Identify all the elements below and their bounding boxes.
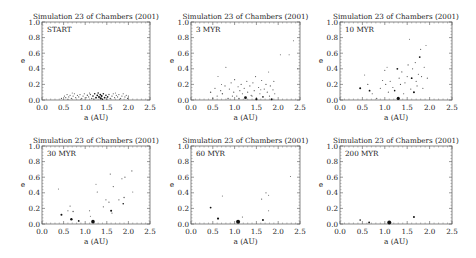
scatter-panel: Simulation 23 of Chambers (2001)0.00.51.…	[21, 12, 159, 122]
planet-point	[68, 96, 69, 97]
y-tick-label: 0.0	[178, 96, 190, 105]
planet-point	[128, 96, 129, 97]
time-annotation: 200 MYR	[345, 149, 379, 158]
planet-point	[236, 96, 237, 97]
figure-canvas: Simulation 23 of Chambers (2001)0.00.51.…	[0, 0, 476, 258]
planet-point	[267, 92, 268, 93]
y-tick-label: 1.0	[29, 18, 41, 27]
planet-point	[217, 217, 219, 219]
planet-point	[261, 198, 262, 199]
planet-point	[415, 62, 416, 63]
planet-point	[403, 93, 404, 94]
planet-point	[95, 97, 97, 99]
x-tick-label: 1.5	[101, 227, 113, 236]
planet-point	[82, 96, 83, 97]
y-tick-label: 0.8	[327, 157, 339, 166]
planet-point	[252, 82, 253, 83]
planet-point	[107, 96, 109, 98]
planet-point	[67, 99, 68, 100]
y-axis-label: e	[170, 56, 174, 65]
y-tick-label: 0.0	[29, 220, 41, 229]
x-tick-label: 2.5	[294, 227, 306, 236]
planet-point	[416, 81, 417, 82]
planet-point	[262, 219, 264, 221]
planet-point	[101, 95, 103, 97]
y-tick-label: 0.2	[178, 204, 189, 213]
planet-point	[220, 90, 221, 91]
planet-point	[78, 96, 79, 97]
scatter-panel: Simulation 23 of Chambers (2001)0.00.51.…	[170, 136, 309, 246]
time-annotation: 10 MYR	[345, 25, 375, 34]
planet-point	[293, 40, 294, 41]
x-tick-label: 2.0	[272, 103, 284, 112]
planet-point	[409, 39, 410, 40]
planet-point	[105, 95, 107, 97]
x-tick-label: 0.5	[207, 103, 219, 112]
planet-point	[367, 84, 368, 85]
planet-point	[88, 96, 89, 97]
planet-point	[359, 219, 361, 221]
panel-title: Simulation 23 of Chambers (2001)	[183, 12, 309, 21]
y-tick-label: 0.6	[29, 173, 41, 182]
planet-point	[369, 90, 371, 92]
y-tick-label: 0.0	[327, 220, 339, 229]
y-tick-label: 0.6	[327, 173, 339, 182]
planet-point	[96, 94, 98, 96]
x-tick-label: 0.5	[357, 227, 369, 236]
planet-point	[64, 96, 65, 97]
planet-point	[77, 95, 78, 96]
planet-point	[422, 88, 423, 89]
scatter-panel: Simulation 23 of Chambers (2001)0.00.51.…	[319, 12, 459, 122]
planet-point	[407, 76, 408, 77]
planet-point	[390, 81, 391, 82]
planet-point	[380, 88, 381, 89]
planet-point	[274, 93, 275, 94]
planet-point	[217, 96, 218, 97]
planet-point	[84, 93, 85, 94]
planet-point	[251, 96, 252, 97]
planet-point	[359, 87, 361, 89]
x-axis-label: a (AU)	[384, 237, 408, 246]
planet-point	[388, 92, 389, 93]
panel-title: Simulation 23 of Chambers (2001)	[33, 136, 159, 145]
planet-point	[118, 94, 119, 95]
planet-point	[103, 206, 104, 207]
planet-point	[105, 199, 106, 200]
planet-point	[258, 87, 259, 88]
planet-point	[100, 97, 102, 99]
planet-point	[242, 93, 243, 94]
x-tick-label: 2.5	[294, 103, 306, 112]
planet-point	[268, 71, 269, 72]
planet-point	[108, 94, 109, 95]
planet-point	[242, 216, 243, 217]
planet-point	[260, 89, 261, 90]
planet-point	[222, 93, 223, 94]
planet-point	[427, 78, 428, 79]
planet-point	[120, 98, 121, 99]
planet-point	[79, 94, 80, 95]
y-tick-label: 0.4	[327, 64, 339, 73]
planet-point	[412, 68, 413, 69]
planet-point	[231, 82, 232, 83]
panel-title: Simulation 23 of Chambers (2001)	[333, 12, 459, 21]
planet-point	[72, 92, 73, 93]
y-tick-label: 1.0	[29, 142, 41, 151]
time-annotation: 3 MYR	[196, 25, 221, 34]
planet-point	[394, 90, 396, 92]
y-axis-label: e	[319, 180, 323, 189]
planet-point	[376, 98, 377, 99]
scatter-panel: Simulation 23 of Chambers (2001)0.00.51.…	[21, 136, 159, 246]
planet-point	[411, 77, 413, 79]
figure: Simulation 23 of Chambers (2001)0.00.51.…	[0, 0, 476, 258]
planet-point	[400, 84, 401, 85]
x-tick-label: 2.5	[144, 227, 156, 236]
planet-point	[237, 86, 238, 87]
planet-point	[404, 82, 405, 83]
y-tick-label: 0.4	[327, 188, 339, 197]
planet-point	[91, 98, 92, 99]
x-tick-label: 1.0	[379, 103, 391, 112]
planet-point	[90, 216, 91, 217]
x-tick-label: 1.0	[79, 103, 91, 112]
planet-point	[218, 76, 219, 77]
planet-point	[132, 192, 133, 193]
